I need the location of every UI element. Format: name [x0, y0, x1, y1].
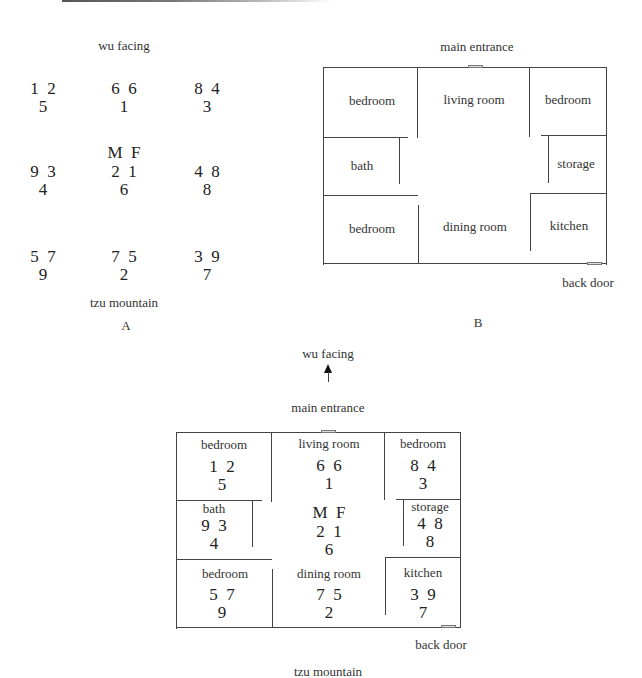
main-entrance-door — [321, 430, 336, 433]
star-cell-nw: 1 2 5 — [209, 458, 235, 494]
star-cell-ne: 8 4 3 — [410, 457, 436, 493]
star-cell-center: 2 1 6 — [316, 523, 342, 559]
star-cell-e: 4 8 8 — [194, 163, 220, 199]
star-cell-w: 9 3 4 — [201, 517, 227, 553]
star-cell-s: 7 5 2 — [316, 586, 342, 622]
star-cell-sw: 5 7 9 — [209, 586, 235, 622]
room-label-bath: bath — [351, 158, 373, 174]
wall-left — [176, 432, 177, 629]
star-cell-center: 2 1 6 — [111, 163, 137, 199]
room-label-dining-room: dining room — [297, 566, 361, 582]
room-label-living-room: living room — [298, 436, 359, 452]
wall-bath-east — [399, 137, 400, 184]
main-entrance-door — [468, 65, 483, 68]
wall-bottom — [176, 627, 461, 628]
wall-bath-east — [252, 500, 253, 547]
wall-storage-south — [385, 557, 461, 558]
room-label-bath: bath — [203, 501, 225, 517]
center-header: M F — [312, 504, 345, 522]
room-label-bedroom-sw: bedroom — [349, 221, 395, 237]
wall-kitchen-west — [385, 557, 386, 615]
wall-top — [323, 67, 607, 68]
wall-storage-west — [548, 135, 549, 183]
wall-storage-west — [403, 499, 404, 546]
room-label-storage: storage — [557, 156, 595, 172]
room-label-bedroom-nw: bedroom — [349, 93, 395, 109]
back-door — [587, 262, 602, 265]
star-cell-se: 3 9 7 — [194, 248, 220, 284]
star-cell-sw: 5 7 9 — [30, 248, 56, 284]
wall-bedroom-ne-west — [529, 67, 530, 137]
figure-c-main-entrance-label: main entrance — [291, 400, 364, 416]
figure-c-back-door-label: back door — [415, 637, 467, 653]
wall-bedroom-sw-east — [272, 569, 273, 628]
wall-bath-south — [176, 559, 272, 560]
room-label-kitchen: kitchen — [404, 565, 442, 581]
room-label-dining-room: dining room — [443, 219, 507, 235]
star-cell-e: 4 8 8 — [417, 515, 443, 551]
wall-right — [460, 432, 461, 628]
star-cell-s: 7 5 2 — [111, 248, 137, 284]
room-label-bedroom-nw: bedroom — [201, 437, 247, 453]
figure-c-tzu-mountain-label: tzu mountain — [294, 664, 362, 678]
wall-bedroom-nw-east — [417, 67, 418, 138]
room-label-kitchen: kitchen — [550, 218, 588, 234]
figure-a-caption: A — [121, 318, 130, 334]
wall-bedroom-sw-east — [418, 205, 419, 264]
star-cell-nw: 1 2 5 — [30, 80, 56, 116]
wall-bath-south — [323, 195, 418, 196]
arrow-shaft — [328, 372, 329, 382]
room-label-living-room: living room — [443, 92, 504, 108]
figure-a-bottom-label: tzu mountain — [90, 295, 158, 311]
figure-b-back-door-label: back door — [562, 275, 614, 291]
room-label-bedroom-sw: bedroom — [202, 566, 248, 582]
wall-storage-south — [530, 193, 607, 194]
wall-bedroom-ne-south — [541, 135, 607, 136]
figure-a-top-label: wu facing — [98, 38, 150, 54]
back-door — [441, 625, 456, 628]
wall-bottom — [323, 263, 607, 264]
star-cell-ne: 8 4 3 — [194, 80, 220, 116]
wall-bedroom-nw-east — [271, 432, 272, 502]
star-cell-n: 6 6 1 — [111, 80, 137, 116]
wall-bedroom-nw-south — [323, 137, 408, 138]
star-cell-se: 3 9 7 — [410, 586, 436, 622]
star-cell-n: 6 6 1 — [316, 457, 342, 493]
center-header: M F — [107, 144, 140, 162]
wall-right — [606, 67, 607, 265]
wall-kitchen-west — [530, 193, 531, 251]
room-label-bedroom-ne: bedroom — [400, 436, 446, 452]
figure-c-wu-facing-label: wu facing — [302, 346, 354, 362]
figure-b-main-entrance-label: main entrance — [440, 39, 513, 55]
figure-b-caption: B — [474, 315, 483, 331]
wall-top — [176, 432, 461, 433]
room-label-storage: storage — [411, 499, 449, 515]
wall-left — [323, 67, 324, 265]
wall-bedroom-ne-west — [384, 432, 385, 500]
top-gradient-rule — [62, 0, 332, 2]
star-cell-w: 9 3 4 — [30, 163, 56, 199]
room-label-bedroom-ne: bedroom — [545, 92, 591, 108]
